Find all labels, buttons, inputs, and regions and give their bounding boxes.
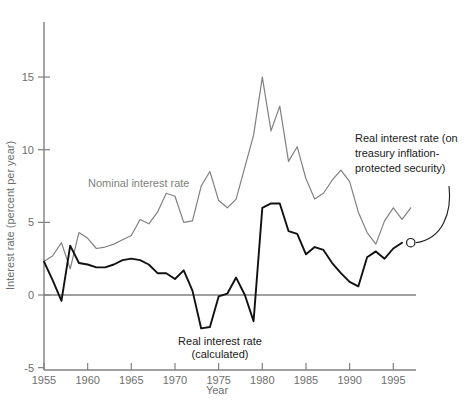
x-axis-title: Year <box>206 384 229 396</box>
real-calculated-series-label-line1: Real interest rate <box>178 335 262 347</box>
chart-svg: -5051015 1955196019651970197519801985199… <box>0 0 469 403</box>
x-tick-label: 1970 <box>163 374 187 386</box>
x-tick-label: 1995 <box>381 374 405 386</box>
y-tick-label: 0 <box>28 289 34 301</box>
interest-rate-chart: -5051015 1955196019651970197519801985199… <box>0 0 469 403</box>
tips-marker-circle <box>407 238 415 246</box>
tips-callout-line2: treasury inflation- <box>355 147 440 159</box>
x-tick-label: 1960 <box>75 374 99 386</box>
x-tick-label: 1955 <box>32 374 56 386</box>
x-tick-label: 1985 <box>294 374 318 386</box>
y-tick-label: 15 <box>22 71 34 83</box>
nominal-series-label: Nominal interest rate <box>88 177 190 189</box>
y-tick-label: 5 <box>28 216 34 228</box>
tips-callout-line1: Real interest rate (on <box>355 132 458 144</box>
x-axis-ticks: 195519601965197019751980198519901995 <box>32 363 406 386</box>
x-tick-label: 1990 <box>337 374 361 386</box>
x-tick-label: 1980 <box>250 374 274 386</box>
real-calculated-series-label-line2: (calculated) <box>192 348 249 360</box>
tips-callout-line3: protected security) <box>355 162 445 174</box>
y-axis-title: Interest rate (percent per year) <box>4 141 16 290</box>
y-tick-label: -5 <box>24 362 34 374</box>
x-tick-label: 1965 <box>119 374 143 386</box>
y-tick-label: 10 <box>22 144 34 156</box>
